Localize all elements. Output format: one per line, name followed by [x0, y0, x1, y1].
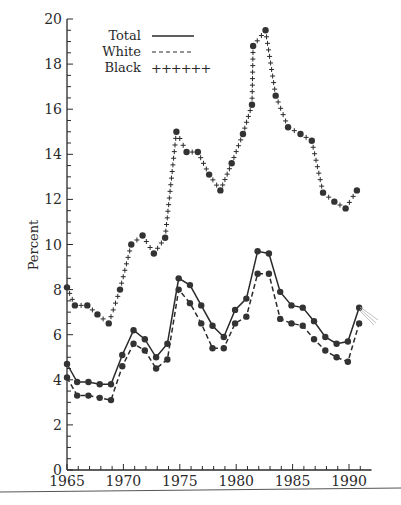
- black-plus-mark: [337, 203, 342, 208]
- black-plus-mark: [250, 63, 255, 68]
- black-plus-mark: [168, 189, 173, 194]
- black-plus-mark: [255, 38, 260, 43]
- white-point: [232, 320, 238, 326]
- black-point: [354, 187, 360, 193]
- black-point: [94, 311, 100, 317]
- black-plus-mark: [101, 316, 106, 321]
- black-point: [84, 302, 90, 308]
- black-plus-mark: [124, 261, 129, 266]
- black-plus-mark: [318, 177, 323, 182]
- total-point: [64, 361, 70, 367]
- black-plus-mark: [134, 237, 139, 242]
- black-plus-mark: [121, 274, 126, 279]
- total-point: [108, 381, 114, 387]
- black-point: [262, 27, 268, 33]
- black-plus-mark: [250, 70, 255, 75]
- legend-sample-plus: ++++++: [151, 61, 210, 76]
- black-plus-mark: [351, 194, 356, 199]
- total-point: [232, 307, 238, 313]
- black-plus-mark: [250, 57, 255, 62]
- white-point: [288, 320, 294, 326]
- x-tick-label: 1980: [218, 473, 254, 489]
- white-point: [119, 363, 125, 369]
- black-plus-mark: [220, 182, 225, 187]
- black-point: [206, 171, 212, 177]
- legend-label-white: White: [102, 44, 141, 59]
- legend: TotalWhiteBlack++++++: [102, 28, 210, 76]
- x-tick-label: 1970: [106, 473, 142, 489]
- black-plus-mark: [292, 128, 297, 133]
- black-plus-mark: [169, 176, 174, 181]
- black-plus-mark: [312, 151, 317, 156]
- black-plus-mark: [79, 303, 84, 308]
- total-point: [209, 322, 215, 328]
- black-point: [64, 284, 70, 290]
- y-tick-label: 8: [53, 282, 62, 298]
- black-point: [217, 187, 223, 193]
- white-point: [300, 322, 306, 328]
- black-plus-mark: [119, 281, 124, 286]
- black-plus-mark: [155, 246, 160, 251]
- black-plus-mark: [231, 155, 236, 160]
- x-tick-label: 1990: [331, 473, 367, 489]
- scan-artifact: [360, 307, 378, 325]
- black-point: [285, 124, 291, 130]
- total-point: [97, 381, 103, 387]
- black-plus-mark: [171, 156, 176, 161]
- black-plus-mark: [248, 108, 253, 113]
- white-point: [356, 320, 362, 326]
- black-plus-mark: [144, 239, 149, 244]
- total-point: [187, 282, 193, 288]
- black-plus-mark: [244, 120, 249, 125]
- black-plus-mark: [90, 307, 95, 312]
- black-plus-mark: [315, 164, 320, 169]
- white-point: [243, 313, 249, 319]
- total-point: [85, 379, 91, 385]
- white-point: [345, 359, 351, 365]
- black-point: [139, 232, 145, 238]
- total-point: [153, 354, 159, 360]
- black-plus-mark: [304, 135, 309, 140]
- white-point: [64, 374, 70, 380]
- y-tick-label: 14: [44, 146, 62, 162]
- black-plus-mark: [198, 155, 203, 160]
- y-tick-label: 16: [44, 101, 62, 117]
- black-plus-mark: [127, 248, 132, 253]
- black-point: [72, 302, 78, 308]
- black-plus-mark: [326, 195, 331, 200]
- black-plus-mark: [201, 161, 206, 166]
- white-point: [221, 345, 227, 351]
- total-point: [130, 327, 136, 333]
- black-plus-mark: [242, 126, 247, 131]
- y-tick-label: 10: [44, 237, 62, 253]
- x-tick-label: 1975: [162, 473, 198, 489]
- total-point: [345, 338, 351, 344]
- total-point: [119, 352, 125, 358]
- black-plus-mark: [214, 183, 219, 188]
- black-plus-mark: [283, 118, 288, 123]
- black-point: [151, 250, 157, 256]
- total-point: [198, 302, 204, 308]
- black-plus-mark: [126, 255, 131, 260]
- white-point: [277, 316, 283, 322]
- black-plus-mark: [163, 229, 168, 234]
- black-plus-mark: [281, 112, 286, 117]
- total-point: [333, 341, 339, 347]
- white-point: [333, 354, 339, 360]
- y-tick-label: 2: [53, 417, 62, 433]
- white-point: [266, 271, 272, 277]
- black-plus-mark: [265, 41, 270, 46]
- black-plus-mark: [270, 74, 275, 79]
- black-plus-mark: [227, 166, 232, 171]
- black-plus-mark: [165, 215, 170, 220]
- black-point: [320, 189, 326, 195]
- black-plus-mark: [67, 291, 72, 296]
- black-plus-mark: [122, 268, 127, 273]
- total-point: [277, 289, 283, 295]
- black-plus-mark: [250, 89, 255, 94]
- black-point: [183, 149, 189, 155]
- white-point: [97, 395, 103, 401]
- black-plus-mark: [250, 76, 255, 81]
- black-plus-mark: [159, 240, 164, 245]
- black-plus-mark: [222, 177, 227, 182]
